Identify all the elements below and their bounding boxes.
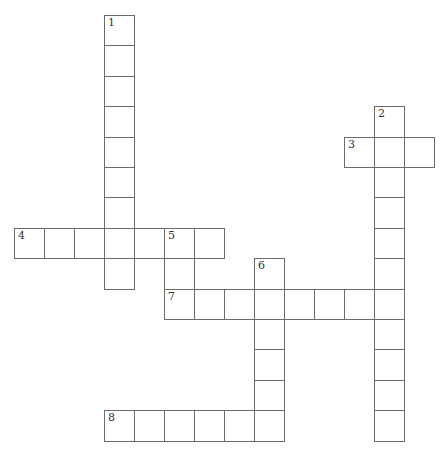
crossword-cell[interactable]	[44, 228, 75, 259]
crossword-cell[interactable]	[164, 410, 195, 441]
crossword-cell[interactable]	[134, 410, 165, 441]
crossword-cell[interactable]	[374, 289, 405, 320]
crossword-cell[interactable]	[194, 228, 225, 259]
clue-number: 5	[168, 230, 175, 242]
crossword-cell[interactable]	[374, 380, 405, 411]
crossword-cell[interactable]	[224, 410, 255, 441]
crossword-cell[interactable]	[104, 137, 135, 168]
clue-number: 7	[168, 291, 175, 303]
crossword-cell[interactable]	[374, 228, 405, 259]
crossword-cell[interactable]	[374, 197, 405, 228]
crossword-cell[interactable]	[104, 197, 135, 228]
crossword-cell[interactable]	[374, 258, 405, 289]
crossword-cell[interactable]	[374, 410, 405, 441]
clue-number: 3	[348, 139, 355, 151]
clue-number: 6	[258, 260, 265, 272]
crossword-cell[interactable]	[314, 289, 345, 320]
crossword-cell[interactable]	[104, 167, 135, 198]
crossword-cell[interactable]	[104, 258, 135, 289]
crossword-cell[interactable]	[254, 380, 285, 411]
crossword-cell[interactable]: 3	[344, 137, 375, 168]
crossword-cell[interactable]: 4	[14, 228, 45, 259]
crossword-cell[interactable]	[104, 106, 135, 137]
crossword-cell[interactable]	[104, 45, 135, 76]
crossword-cell[interactable]	[284, 289, 315, 320]
crossword-cell[interactable]	[224, 289, 255, 320]
crossword-cell[interactable]	[194, 410, 225, 441]
crossword-cell[interactable]	[194, 289, 225, 320]
crossword-cell[interactable]	[374, 349, 405, 380]
crossword-cell[interactable]: 5	[164, 228, 195, 259]
crossword-cell[interactable]	[344, 289, 375, 320]
crossword-cell[interactable]	[254, 349, 285, 380]
crossword-cell[interactable]	[254, 410, 285, 441]
clue-number: 4	[18, 230, 25, 242]
crossword-cell[interactable]	[74, 228, 105, 259]
crossword-cell[interactable]: 8	[104, 410, 135, 441]
crossword-cell[interactable]	[134, 228, 165, 259]
crossword-cell[interactable]	[164, 258, 195, 289]
clue-number: 2	[378, 108, 385, 120]
crossword-cell[interactable]	[254, 319, 285, 350]
crossword-cell[interactable]	[374, 319, 405, 350]
crossword-cell[interactable]: 7	[164, 289, 195, 320]
crossword-cell[interactable]: 2	[374, 106, 405, 137]
crossword-grid: 12345678	[0, 0, 446, 457]
crossword-cell[interactable]	[104, 76, 135, 107]
clue-number: 1	[108, 17, 115, 29]
crossword-cell[interactable]: 6	[254, 258, 285, 289]
crossword-cell[interactable]	[374, 167, 405, 198]
crossword-cell[interactable]	[404, 137, 435, 168]
crossword-cell[interactable]: 1	[104, 15, 135, 46]
crossword-cell[interactable]	[104, 228, 135, 259]
crossword-cell[interactable]	[374, 137, 405, 168]
clue-number: 8	[108, 412, 115, 424]
crossword-cell[interactable]	[254, 289, 285, 320]
